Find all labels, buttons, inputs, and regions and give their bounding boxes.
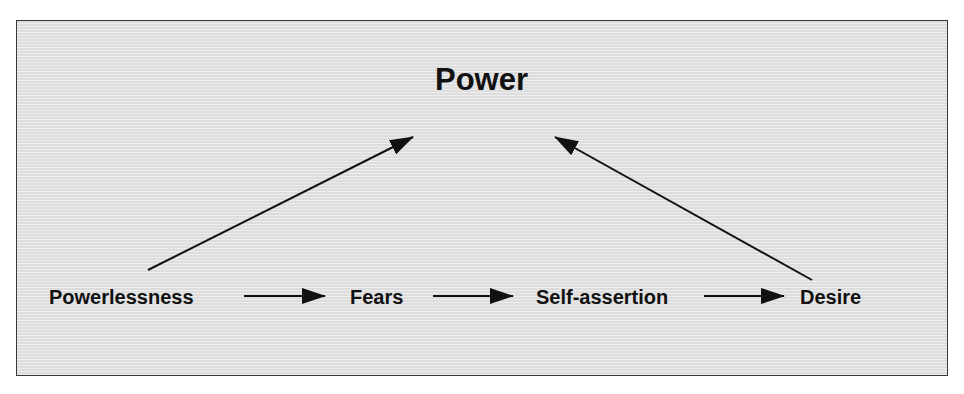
- node-fears: Fears: [350, 287, 403, 307]
- node-self-assertion: Self-assertion: [536, 287, 668, 307]
- node-desire: Desire: [800, 287, 861, 307]
- arrow-powerlessness-to-power: [148, 137, 413, 270]
- arrow-desire-to-power: [555, 137, 812, 280]
- arrows-layer: [0, 0, 964, 394]
- diagram-title-power: Power: [435, 64, 528, 95]
- node-powerlessness: Powerlessness: [49, 287, 194, 307]
